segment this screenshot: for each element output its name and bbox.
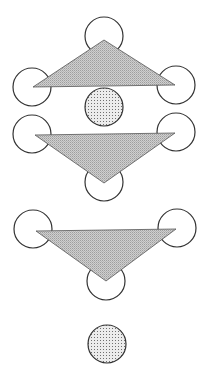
dotted-circle xyxy=(85,88,123,126)
group-1 xyxy=(13,17,195,126)
molecule-diagram xyxy=(0,0,206,386)
triangle-plane xyxy=(33,40,175,87)
atom-circle xyxy=(157,113,195,151)
triangle-plane xyxy=(36,229,176,281)
atom-circle xyxy=(14,210,52,248)
group-3 xyxy=(14,209,196,363)
atom-circle xyxy=(158,209,196,247)
dotted-circle xyxy=(88,325,126,363)
triangle-plane xyxy=(35,133,175,183)
atom-circle xyxy=(13,115,51,153)
